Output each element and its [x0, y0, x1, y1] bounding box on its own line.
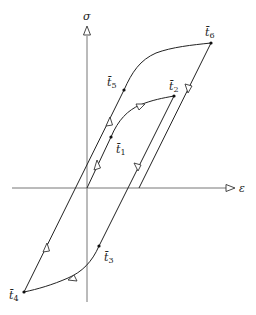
sigma-axis: σ — [83, 10, 91, 302]
arrow-left-icon — [68, 275, 77, 281]
point-t2: t̄2 — [169, 80, 179, 98]
point-t6: t̄6 — [205, 26, 215, 45]
sigma-label: σ — [83, 10, 91, 23]
arrow-down-icon — [185, 84, 192, 93]
arrow-up-icon — [43, 243, 50, 252]
unloading-path-t6 — [139, 43, 211, 188]
epsilon-axis-arrow-icon — [226, 185, 235, 192]
svg-text:t̄2: t̄2 — [169, 80, 179, 94]
svg-text:t̄6: t̄6 — [205, 26, 215, 40]
svg-text:t̄1: t̄1 — [116, 143, 126, 157]
loading-path-origin-t2 — [87, 96, 174, 188]
hysteresis-diagram: σ ε t̄1 t̄2 t̄3 t̄4 — [0, 0, 256, 315]
hardening-path-t5-t6 — [124, 43, 211, 90]
point-t4: t̄4 — [9, 289, 26, 303]
arrow-up-icon — [106, 117, 113, 126]
epsilon-label: ε — [239, 182, 245, 195]
direction-arrows — [43, 84, 192, 281]
svg-text:t̄5: t̄5 — [107, 76, 117, 90]
epsilon-axis: ε — [12, 182, 245, 195]
sigma-axis-arrow-icon — [84, 26, 91, 35]
point-t3: t̄3 — [97, 244, 113, 265]
svg-text:t̄4: t̄4 — [9, 289, 19, 303]
point-t1: t̄1 — [109, 135, 125, 157]
point-t5: t̄5 — [107, 76, 126, 92]
svg-text:t̄3: t̄3 — [104, 251, 114, 265]
arrow-right-icon — [136, 104, 145, 110]
